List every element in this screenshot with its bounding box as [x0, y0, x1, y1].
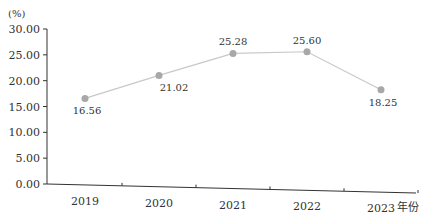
y-tick-label: 0.00	[16, 178, 41, 191]
x-tick-label: 2021	[219, 199, 247, 212]
y-tick-label: 20.00	[9, 75, 41, 88]
data-label: 25.28	[219, 36, 248, 47]
y-tick-label: 5.00	[16, 152, 41, 165]
y-axis-unit: (%)	[8, 8, 25, 19]
data-point-marker	[156, 72, 163, 79]
data-series: 16.5621.0225.2825.6018.25	[73, 35, 398, 117]
y-axis: 0.005.0010.0015.0020.0025.0030.00(%)	[8, 8, 47, 191]
x-tick-label: 2019	[71, 195, 99, 208]
x-tick-label: 2020	[145, 197, 173, 210]
x-tick-label: 2023	[367, 202, 395, 215]
data-label: 21.02	[160, 82, 189, 93]
data-point-marker	[378, 86, 385, 93]
y-tick-label: 15.00	[9, 101, 41, 114]
data-point-marker	[304, 48, 311, 55]
data-label: 16.56	[73, 105, 102, 116]
data-label: 18.25	[369, 97, 398, 108]
y-tick-label: 10.00	[9, 126, 41, 139]
data-point-marker	[230, 50, 237, 57]
data-point-marker	[82, 95, 89, 102]
x-axis-unit: 年份	[397, 200, 419, 214]
x-axis: 20192020202120222023年份	[47, 183, 419, 215]
line-chart: 0.005.0010.0015.0020.0025.0030.00(%) 201…	[0, 0, 428, 218]
series-line	[85, 52, 381, 99]
y-tick-label: 25.00	[9, 49, 41, 62]
y-tick-label: 30.00	[9, 23, 41, 36]
data-label: 25.60	[293, 35, 322, 46]
x-axis-line	[47, 184, 416, 193]
x-tick-label: 2022	[293, 200, 321, 213]
